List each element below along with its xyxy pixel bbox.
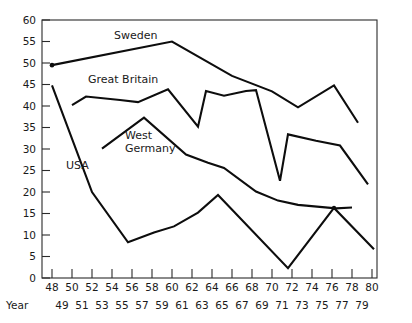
y-tick-label: 5: [29, 250, 36, 262]
x-tick-label-upper: 76: [325, 281, 339, 293]
series-marker-usa-peak: [332, 206, 336, 210]
x-tick-label-upper: 48: [45, 281, 58, 293]
x-tick-label-lower: 79: [355, 299, 368, 311]
x-tick-label-upper: 52: [85, 281, 98, 293]
x-tick-label-lower: 75: [315, 299, 328, 311]
x-tick-label-upper: 56: [125, 281, 139, 293]
x-tick-label-upper: 58: [145, 281, 158, 293]
x-tick-label-lower: 77: [335, 299, 348, 311]
y-tick-label: 50: [23, 57, 36, 69]
y-tick-label: 0: [29, 272, 36, 284]
x-tick-label-lower: 73: [295, 299, 308, 311]
x-tick-label-lower: 63: [195, 299, 208, 311]
x-tick-label-lower: 59: [155, 299, 168, 311]
x-tick-label-lower: 67: [235, 299, 248, 311]
x-tick-label-lower: 71: [275, 299, 288, 311]
x-tick-label-lower: 49: [55, 299, 68, 311]
x-tick-label-upper: 54: [105, 281, 119, 293]
y-tick-label: 35: [23, 121, 36, 133]
y-tick-label: 25: [23, 164, 36, 176]
series-label-great-britain: Great Britain: [88, 73, 158, 86]
x-tick-label-lower: 57: [135, 299, 148, 311]
x-tick-label-upper: 74: [305, 281, 319, 293]
x-axis-title: Year: [5, 299, 29, 311]
x-tick-label-upper: 66: [225, 281, 239, 293]
y-tick-label: 15: [23, 207, 36, 219]
plot-frame: [42, 20, 377, 278]
y-tick-label: 60: [23, 14, 36, 26]
y-tick-label: 20: [23, 186, 36, 198]
y-tick-label: 30: [23, 143, 36, 155]
x-tick-label-upper: 50: [65, 281, 78, 293]
y-tick-label: 45: [23, 78, 36, 90]
x-tick-label-upper: 68: [245, 281, 258, 293]
chart-canvas: 0510152025303540455055604850525456586062…: [0, 0, 412, 323]
x-tick-label-upper: 72: [285, 281, 298, 293]
x-tick-label-lower: 69: [255, 299, 268, 311]
y-tick-label: 40: [23, 100, 36, 112]
x-tick-label-upper: 60: [165, 281, 178, 293]
line-chart: 0510152025303540455055604850525456586062…: [0, 0, 412, 323]
x-tick-label-lower: 55: [115, 299, 128, 311]
x-tick-label-upper: 62: [185, 281, 198, 293]
x-tick-label-lower: 61: [175, 299, 188, 311]
x-tick-label-upper: 70: [265, 281, 278, 293]
series-line-usa: [52, 85, 374, 268]
y-tick-label: 55: [23, 35, 36, 47]
x-tick-label-lower: 65: [215, 299, 228, 311]
y-tick-label: 10: [23, 229, 36, 241]
x-tick-label-upper: 64: [205, 281, 219, 293]
x-tick-label-lower: 51: [75, 299, 88, 311]
x-tick-label-upper: 80: [365, 281, 378, 293]
series-label-sweden: Sweden: [114, 29, 157, 42]
series-label-usa: USA: [66, 159, 89, 172]
x-tick-label-upper: 78: [345, 281, 358, 293]
series-label-west-germany: WestGermany: [125, 129, 176, 155]
series-marker-sweden: [50, 63, 55, 68]
x-tick-label-lower: 53: [95, 299, 108, 311]
